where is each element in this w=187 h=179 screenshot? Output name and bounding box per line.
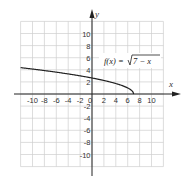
x-tick-label: 8 [138, 96, 142, 105]
x-tick-label: -8 [41, 96, 48, 105]
y-tick-label: 4 [86, 66, 90, 75]
function-label: f(x) = 7 − x [99, 53, 161, 68]
y-axis-arrow-icon [90, 9, 95, 18]
x-tick-label: -2 [77, 96, 84, 105]
function-graph: -10-8-6-4-20246810108642-2-4-6-8-10 f(x)… [0, 0, 187, 179]
y-tick-label: -8 [84, 138, 91, 147]
function-label-prefix: f(x) = [104, 56, 124, 66]
x-tick-label: 6 [126, 96, 130, 105]
x-tick-label: -6 [53, 96, 60, 105]
x-tick-label: -10 [27, 96, 38, 105]
x-tick-label: 2 [102, 96, 106, 105]
y-tick-label: 6 [86, 54, 90, 63]
y-tick-label: -2 [84, 102, 91, 111]
y-tick-label: 2 [86, 78, 90, 87]
y-tick-label: 8 [86, 42, 90, 51]
axes [14, 9, 181, 176]
x-tick-label: 10 [147, 96, 155, 105]
function-label-radicand: 7 − x [133, 56, 151, 66]
x-axis-arrow-icon [172, 92, 181, 97]
x-tick-label: -4 [65, 96, 72, 105]
x-tick-label: 4 [114, 96, 118, 105]
x-axis-label: x [168, 79, 173, 89]
y-tick-label: -10 [80, 151, 91, 160]
y-axis-label: y [94, 9, 99, 19]
function-curve [21, 68, 134, 94]
y-tick-label: -4 [84, 114, 91, 123]
y-tick-label: 10 [82, 30, 90, 39]
y-tick-label: -6 [84, 126, 91, 135]
